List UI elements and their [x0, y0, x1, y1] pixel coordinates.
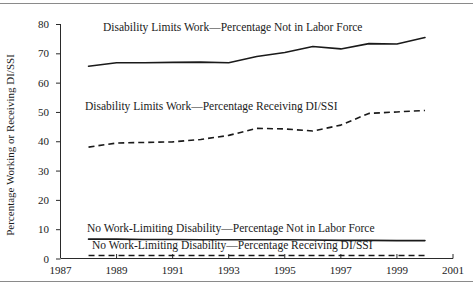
x-axis-tick-label: 1993 [218, 264, 241, 276]
y-axis-title-label: Percentage Working or Receiving DI/SSI [4, 54, 16, 236]
y-axis-title: Percentage Working or Receiving DI/SSI [4, 54, 16, 236]
line-chart: Percentage Working or Receiving DI/SSI 0… [0, 0, 473, 288]
x-axis-tick-label: 1997 [330, 264, 353, 276]
y-axis-tick-label: 40 [38, 135, 50, 147]
y-axis-tick-label: 20 [38, 194, 50, 206]
figure-container: Percentage Working or Receiving DI/SSI 0… [0, 0, 473, 288]
y-axis-tick-label: 60 [38, 77, 50, 89]
series-annotation-1: Disability Limits Work—Percentage Receiv… [85, 100, 338, 113]
x-axis-tick-label: 1989 [106, 264, 129, 276]
series-line-0: Disability Limits Work—Percentage Not in… [89, 37, 425, 66]
x-axis-tick-label: 1991 [162, 264, 184, 276]
y-axis-tick-label: 70 [38, 47, 50, 59]
x-axis-tick-label: 1999 [386, 264, 409, 276]
y-axis-tick-label: 10 [38, 223, 50, 235]
series-annotation-3: No Work-Limiting Disability—Percentage R… [92, 239, 373, 252]
series-annotation-2: No Work-Limiting Disability—Percentage N… [87, 222, 375, 235]
x-axis-tick-label: 2001 [442, 264, 464, 276]
series-line-1: Disability Limits Work—Percentage Receiv… [89, 110, 425, 147]
x-axis-tick-label: 1987 [50, 264, 73, 276]
y-axis-tick-label: 30 [38, 165, 50, 177]
y-axis-tick-label: 50 [38, 106, 50, 118]
y-axis-tick-label: 0 [44, 253, 50, 265]
x-axis-tick-label: 1995 [274, 264, 297, 276]
y-axis-tick-marks [56, 25, 61, 260]
x-axis-tick-labels: 19871989199119931995199719992001 [50, 264, 465, 276]
y-axis-tick-labels: 01020304050607080 [38, 18, 50, 265]
y-axis-tick-label: 80 [38, 18, 50, 30]
series-annotation-0: Disability Limits Work—Percentage Not in… [103, 21, 362, 34]
series-annotations: Disability Limits Work—Percentage Not in… [85, 21, 375, 252]
